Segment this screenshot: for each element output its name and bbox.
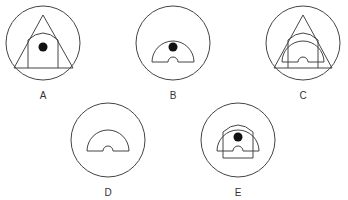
outer-circle — [266, 6, 340, 80]
option-label: D — [104, 187, 111, 198]
options-figure: A B C D E — [0, 0, 348, 200]
option-label: C — [299, 90, 306, 101]
option-label: A — [40, 90, 47, 101]
option-e[interactable]: E — [201, 103, 275, 198]
black-dot — [169, 43, 178, 52]
option-label: B — [170, 90, 177, 101]
option-label: E — [235, 187, 242, 198]
half-ring — [87, 130, 129, 151]
triangle — [14, 15, 73, 68]
option-a[interactable]: A — [6, 6, 80, 101]
outer-circle — [71, 103, 145, 177]
arch — [288, 33, 318, 68]
option-c[interactable]: C — [266, 6, 340, 101]
black-dot — [39, 43, 48, 52]
black-dot — [234, 133, 243, 142]
option-d[interactable]: D — [71, 103, 145, 198]
option-b[interactable]: B — [136, 6, 210, 101]
